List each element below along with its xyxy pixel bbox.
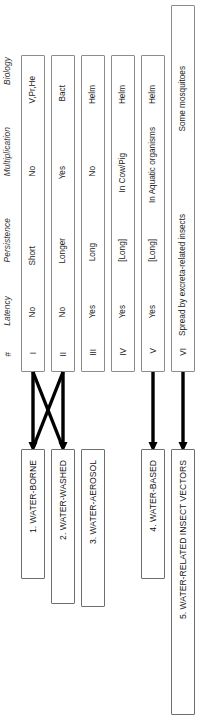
cell-persistence: Long	[89, 243, 97, 261]
category-label: 5. WATER-RELATED INSECT VECTORS	[179, 460, 188, 619]
cell-multiplication: In Aquatic organisms	[149, 127, 157, 203]
cell-multiplication: No	[29, 166, 37, 176]
table-row[interactable]: VI Spread by excreta-related insects Som…	[171, 5, 195, 372]
category-box-water-based[interactable]: 4. WATER-BASED	[141, 449, 165, 579]
table-row[interactable]: II No Longer Yes Bact	[51, 55, 75, 372]
cell-persistence: [Long]	[119, 239, 127, 262]
column-header-multiplication: Multiplication	[3, 127, 11, 176]
row-numeral: II	[60, 352, 68, 357]
row-numeral: IV	[120, 348, 128, 356]
connector-row1-to-waterwashed	[33, 372, 63, 448]
category-box-water-aerosol[interactable]: 3. WATER-AEROSOL	[81, 449, 105, 607]
category-box-water-borne[interactable]: 1. WATER-BORNE	[21, 449, 45, 579]
category-label: 1. WATER-BORNE	[29, 460, 38, 533]
category-label: 4. WATER-BASED	[149, 460, 158, 532]
column-header-latency: Latency	[3, 296, 11, 326]
table-row[interactable]: III Yes Long No Helm	[81, 55, 105, 372]
diagram-canvas: # Latency Persistence Multiplication Bio…	[0, 0, 206, 723]
row-numeral: III	[90, 349, 98, 356]
cell-biology: Helm	[149, 85, 157, 104]
cell-persistence: Short	[29, 246, 37, 266]
row-numeral: I	[30, 352, 38, 354]
cell-latency: Yes	[119, 305, 127, 318]
cell-latency: Yes	[89, 305, 97, 318]
cell-persistence: [Long]	[149, 239, 157, 262]
cell-biology: V,Pr,He	[29, 76, 37, 103]
column-header-biology: Biology	[3, 57, 11, 85]
cell-latency: No	[59, 307, 67, 317]
cell-latency: No	[29, 307, 37, 317]
connector-row2-to-waterborne	[33, 372, 63, 448]
column-header-number: #	[4, 352, 12, 357]
cell-biology: Helm	[89, 85, 97, 104]
cell-persistence: Longer	[59, 238, 67, 264]
cell-note: Spread by excreta-related insects	[179, 214, 187, 336]
category-box-water-washed[interactable]: 2. WATER-WASHED	[51, 449, 75, 604]
table-row[interactable]: IV Yes [Long] In Cow/Pig Helm	[111, 55, 135, 372]
cell-multiplication: No	[89, 166, 97, 176]
cell-biology: Bact	[59, 85, 67, 101]
cell-latency: Yes	[149, 305, 157, 318]
category-box-water-related-insect-vectors[interactable]: 5. WATER-RELATED INSECT VECTORS	[171, 449, 195, 715]
category-label: 2. WATER-WASHED	[59, 460, 68, 540]
row-numeral: V	[150, 348, 158, 353]
column-header-persistence: Persistence	[3, 218, 11, 262]
cell-multiplication: In Cow/Pig	[119, 153, 127, 193]
table-row[interactable]: I No Short No V,Pr,He	[21, 55, 45, 372]
table-row[interactable]: V Yes [Long] In Aquatic organisms Helm	[141, 55, 165, 372]
cell-biology: Helm	[119, 85, 127, 104]
cell-multiplication: Yes	[59, 166, 67, 179]
row-numeral: VI	[180, 348, 188, 356]
cell-biology: Some mosquitoes	[179, 66, 187, 132]
category-label: 3. WATER-AEROSOL	[89, 460, 98, 544]
